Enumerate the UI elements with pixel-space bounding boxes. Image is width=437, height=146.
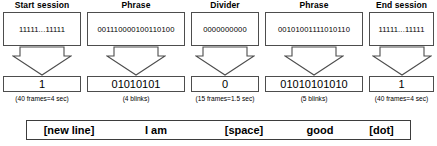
decoded-sentence-bar: [new line] I am [space] good [dot] xyxy=(26,120,411,140)
column-phrase-second: Phrase 00101001111010110 01010101010 (5 … xyxy=(262,0,366,104)
decoded-word: good xyxy=(287,124,353,136)
decoded-word: [new line] xyxy=(27,124,111,136)
column-divider: Divider 0000000000 0 (15 frames=1.5 sec) xyxy=(188,0,262,104)
code-box: 00101001111010110 xyxy=(265,12,363,46)
bits-box: 01010101 xyxy=(87,76,185,92)
code-text: 001110000100110100 xyxy=(97,25,174,34)
down-block-arrow-icon xyxy=(265,46,363,76)
bits-text: 1 xyxy=(398,79,404,90)
bits-box: 0 xyxy=(191,76,259,92)
bits-box: 1 xyxy=(369,76,434,92)
column-caption: (5 blinks) xyxy=(301,95,328,104)
bits-box: 1 xyxy=(3,76,81,92)
decoded-word: [space] xyxy=(201,124,287,136)
decoded-word: I am xyxy=(111,124,201,136)
column-caption: (4 blinks) xyxy=(123,95,150,104)
code-text: 00101001111010110 xyxy=(278,25,350,34)
code-box: 0000000000 xyxy=(191,12,259,46)
bits-text: 01010101010 xyxy=(280,79,347,90)
code-text: 11111...11111 xyxy=(19,25,65,34)
blink-encoding-diagram: Start session 11111...11111 1 (40 frames… xyxy=(0,0,437,146)
code-box: 11111...11111 xyxy=(3,12,81,46)
bits-text: 01010101 xyxy=(112,79,161,90)
bits-text: 1 xyxy=(39,79,45,90)
down-block-arrow-icon xyxy=(191,46,259,76)
bits-box: 01010101010 xyxy=(265,76,363,92)
column-caption: (40 frames=4 sec) xyxy=(15,95,68,104)
column-header: End session xyxy=(376,0,427,12)
column-phrase-first: Phrase 001110000100110100 01010101 (4 bl… xyxy=(84,0,188,104)
decoded-word: [dot] xyxy=(353,124,410,136)
column-header: Phrase xyxy=(300,0,329,12)
column-header: Divider xyxy=(210,0,240,12)
down-block-arrow-icon xyxy=(87,46,185,76)
column-row: Start session 11111...11111 1 (40 frames… xyxy=(0,0,437,104)
code-box: 11111...11111 xyxy=(369,12,434,46)
code-text: 11111...11111 xyxy=(379,25,425,34)
column-caption: (40 frames=4 sec) xyxy=(375,95,428,104)
code-text: 0000000000 xyxy=(203,25,247,34)
column-caption: (15 frames=1.5 sec) xyxy=(196,95,255,104)
column-start-session: Start session 11111...11111 1 (40 frames… xyxy=(0,0,84,104)
bits-text: 0 xyxy=(222,79,228,90)
column-header: Start session xyxy=(15,0,70,12)
column-header: Phrase xyxy=(122,0,151,12)
code-box: 001110000100110100 xyxy=(87,12,185,46)
column-end-session: End session 11111...11111 1 (40 frames=4… xyxy=(366,0,437,104)
down-block-arrow-icon xyxy=(369,46,434,76)
down-block-arrow-icon xyxy=(3,46,81,76)
